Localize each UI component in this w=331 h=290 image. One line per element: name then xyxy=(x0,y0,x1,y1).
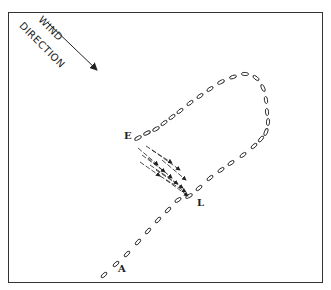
footprint-mark xyxy=(206,86,214,93)
footprint-mark xyxy=(160,120,168,127)
footprint-mark xyxy=(100,271,107,278)
footprint-mark xyxy=(195,184,203,191)
drift-arrow xyxy=(152,150,180,170)
footprint-mark xyxy=(186,100,194,107)
footprint-mark xyxy=(260,84,266,92)
footprint-mark xyxy=(264,96,268,104)
point-label-turn: L xyxy=(197,197,204,208)
drift-arrow xyxy=(148,158,172,178)
footprint-mark xyxy=(154,216,161,223)
footprint-mark xyxy=(252,75,260,82)
footprint-mark xyxy=(265,108,269,115)
footprint-mark xyxy=(164,206,171,213)
footprint-mark xyxy=(134,238,141,245)
footprint-mark xyxy=(227,160,235,167)
footprint-mark xyxy=(143,130,151,136)
footprint-mark xyxy=(217,167,225,174)
point-label-end: E xyxy=(124,130,132,141)
footprint-mark xyxy=(257,135,264,143)
flight-path-diagram xyxy=(0,0,331,290)
drift-arrow xyxy=(156,170,183,188)
footprint-mark xyxy=(134,135,142,141)
footprint-mark xyxy=(206,174,214,181)
drift-arrow xyxy=(162,160,186,180)
footprint-mark xyxy=(196,93,204,100)
wind-drift-arrows xyxy=(138,146,188,196)
footprint-mark xyxy=(266,118,270,125)
footprint-mark xyxy=(229,74,237,79)
footprint-mark xyxy=(241,72,248,76)
point-label-start: A xyxy=(118,263,126,274)
footprint-mark xyxy=(152,126,160,132)
footprint-mark xyxy=(263,128,269,136)
footprint-mark xyxy=(217,79,225,85)
footprint-mark xyxy=(174,197,182,204)
footprint-mark xyxy=(239,152,247,159)
footprint-mark xyxy=(185,193,193,199)
footprint-mark xyxy=(250,142,258,149)
footprint-mark xyxy=(176,108,184,115)
drift-arrow xyxy=(160,176,186,192)
drift-arrow xyxy=(150,165,178,184)
drift-arrow xyxy=(166,180,188,196)
footprint-mark xyxy=(144,227,151,234)
footprint-mark xyxy=(168,114,176,121)
footprint-trail xyxy=(100,72,270,278)
footprint-mark xyxy=(123,250,130,257)
